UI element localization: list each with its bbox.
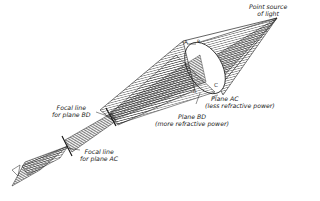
plane-ac-line1: Plane AC bbox=[205, 95, 275, 102]
point-a-label: A bbox=[184, 39, 188, 45]
point-source-line1: Point source bbox=[249, 3, 287, 10]
point-d-label: D bbox=[193, 89, 196, 94]
point-c-label: C bbox=[214, 82, 218, 88]
plane-bd-label: Plane BD (more refractive power) bbox=[155, 113, 229, 127]
point-b-label: B bbox=[197, 39, 200, 44]
focal-ac-line1: Focal line bbox=[80, 148, 118, 155]
plane-bd-line2: (more refractive power) bbox=[155, 120, 229, 127]
focal-bd-line1: Focal line bbox=[52, 104, 91, 111]
focal-bd-line2: for plane BD bbox=[52, 111, 91, 118]
focal-ac-line2: for plane AC bbox=[80, 155, 118, 162]
plane-bd-line1: Plane BD bbox=[155, 113, 229, 120]
point-source-line2: of light bbox=[249, 10, 287, 17]
point-source-label: Point source of light bbox=[249, 3, 287, 17]
plane-ac-line2: (less refractive power) bbox=[205, 102, 275, 109]
focal-line-ac-label: Focal line for plane AC bbox=[80, 148, 118, 162]
focal-line-bd-label: Focal line for plane BD bbox=[52, 104, 91, 118]
plane-ac-label: Plane AC (less refractive power) bbox=[205, 95, 275, 109]
